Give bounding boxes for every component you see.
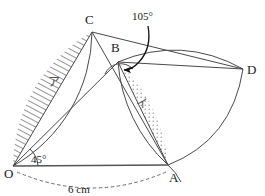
region-dotted: [118, 62, 168, 165]
arc-BD: [118, 50, 243, 69]
chord-AB: [118, 62, 168, 165]
arc-AD: [168, 69, 243, 165]
geometry-figure: O A B C D 45° 105° 6 cm ア イ: [0, 0, 265, 196]
length-label-6cm: 6 cm: [68, 183, 90, 195]
geometry-canvas: O A B C D 45° 105° 6 cm ア イ: [0, 0, 265, 196]
point-label-O: O: [4, 166, 13, 181]
point-label-D: D: [247, 62, 256, 77]
angle-label-45: 45°: [31, 153, 46, 165]
point-label-C: C: [85, 12, 94, 27]
segment-OA: [13, 165, 168, 166]
measure-arc-6cm: [17, 172, 166, 188]
point-label-B: B: [111, 40, 120, 55]
point-label-A: A: [169, 170, 179, 185]
angle-label-105: 105°: [132, 10, 153, 22]
segment-AC: [92, 32, 168, 165]
region-label-hatched: ア: [48, 75, 60, 89]
region-label-dotted: イ: [136, 97, 148, 111]
segment-BD: [118, 62, 243, 69]
